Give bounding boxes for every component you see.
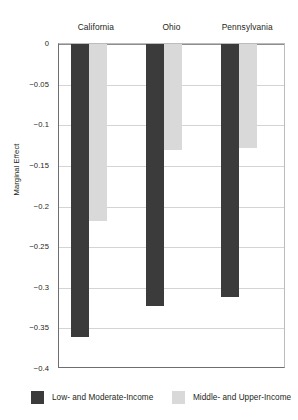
y-axis-tick-label: −0.15 xyxy=(29,160,49,169)
bars-layer xyxy=(59,44,284,367)
chart-legend: Low- and Moderate-Income Middle- and Upp… xyxy=(0,390,298,408)
bar[interactable] xyxy=(146,44,164,306)
bar-chart-figure: California Ohio Pennsylvania Marginal Ef… xyxy=(0,0,298,420)
category-label-pennsylvania: Pennsylvania xyxy=(209,21,285,37)
y-axis-tick-label: −0.05 xyxy=(29,79,49,88)
bar-group xyxy=(209,44,284,367)
y-axis-tick-label: −0.25 xyxy=(29,242,49,251)
legend-swatch-icon-light xyxy=(172,391,185,404)
y-axis-tick-label: −0.35 xyxy=(29,323,49,332)
bar-group xyxy=(59,44,134,367)
legend-item-middle-upper-income[interactable]: Middle- and Upper-Income xyxy=(172,390,291,404)
legend-item-low-moderate-income[interactable]: Low- and Moderate-Income xyxy=(31,390,153,404)
y-axis-tick-label: −0.3 xyxy=(34,282,49,291)
legend-swatch-icon-dark xyxy=(31,391,44,404)
category-label-ohio: Ohio xyxy=(134,21,210,37)
bar[interactable] xyxy=(89,44,107,221)
category-header-row: California Ohio Pennsylvania xyxy=(58,21,285,37)
y-axis-tick-labels: 0−0.05−0.1−0.15−0.2−0.25−0.3−0.35−0.4 xyxy=(0,43,54,368)
legend-label-middle-upper-income: Middle- and Upper-Income xyxy=(193,393,291,402)
y-axis-tick-label: −0.4 xyxy=(34,364,49,373)
bar[interactable] xyxy=(239,44,257,148)
bar[interactable] xyxy=(221,44,239,297)
category-label-california: California xyxy=(58,21,134,37)
bar[interactable] xyxy=(164,44,182,150)
y-axis-tick-label: −0.1 xyxy=(34,120,49,129)
y-axis-tick-label: −0.2 xyxy=(34,201,49,210)
legend-label-low-moderate-income: Low- and Moderate-Income xyxy=(52,393,153,402)
bar[interactable] xyxy=(71,44,89,337)
plot-area xyxy=(58,43,285,368)
y-axis-tick-label: 0 xyxy=(45,39,49,48)
bar-group xyxy=(134,44,209,367)
